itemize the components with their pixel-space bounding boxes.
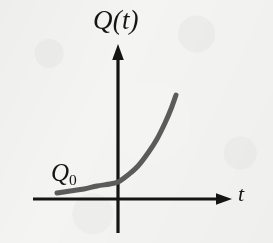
exponential-growth-figure: Q(t) Q0 t bbox=[0, 0, 273, 243]
initial-value-subscript: 0 bbox=[69, 171, 77, 188]
y-axis-label: Q(t) bbox=[93, 7, 139, 34]
initial-value-label: Q0 bbox=[51, 160, 77, 185]
x-axis-label: t bbox=[238, 183, 244, 205]
y-axis-arrowhead bbox=[112, 44, 124, 60]
initial-value-symbol: Q bbox=[51, 159, 69, 186]
plot-area bbox=[0, 0, 273, 243]
x-axis-arrowhead bbox=[216, 193, 232, 205]
